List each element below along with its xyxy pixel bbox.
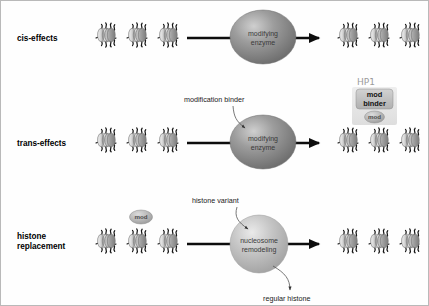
row-histone-replacement: histone replacement mod nucleosome remod… — [17, 196, 419, 303]
remodeling-label-line2: remodeling — [242, 246, 277, 254]
row-label-histone-replacement-line2: replacement — [17, 242, 66, 251]
nucleosome — [129, 23, 147, 47]
nucleosome — [371, 23, 389, 47]
nucleosome-remodeling-sphere: nucleosome remodeling — [230, 215, 288, 273]
row-label-cis-effects: cis-effects — [17, 34, 58, 43]
nucleosome-array-output — [338, 23, 419, 47]
annotation-modification-binder: modification binder — [184, 95, 245, 128]
chromatin-modification-figure: cis-effects modifying enzyme trans-effec… — [0, 0, 429, 306]
mod-mark: mod — [130, 210, 153, 224]
nucleosome — [98, 23, 116, 47]
nucleosome — [160, 128, 178, 152]
enzyme-label-line1: modifying — [248, 135, 278, 143]
nucleosome — [98, 128, 116, 152]
diagram-canvas: cis-effects modifying enzyme trans-effec… — [1, 1, 429, 306]
nucleosome-array-input — [96, 128, 178, 152]
nucleosome — [402, 229, 420, 253]
row-label-histone-replacement-line1: histone — [17, 232, 47, 241]
annotation-regular-histone: regular histone — [263, 266, 311, 303]
row-trans-effects: trans-effects modifying enzyme modificat… — [17, 77, 419, 169]
nucleosome — [340, 229, 358, 253]
enzyme-label-line1: modifying — [248, 30, 278, 38]
nucleosome-array-input — [96, 23, 178, 47]
remodeling-label-line1: nucleosome — [240, 237, 278, 244]
annotation-label: modification binder — [184, 95, 245, 104]
nucleosome — [371, 229, 389, 253]
nucleosome — [371, 128, 389, 152]
nucleosome-array-input: mod — [96, 210, 178, 253]
annotation-label: regular histone — [263, 294, 311, 303]
mod-badge-label: mod — [368, 113, 381, 120]
mod-binder-complex: mod binder mod HP1 — [352, 77, 397, 125]
nucleosome — [402, 23, 420, 47]
leader-line — [273, 266, 290, 290]
nucleosome — [129, 229, 147, 253]
nucleosome — [98, 229, 116, 253]
nucleosome — [160, 229, 178, 253]
annotation-label: histone variant — [192, 196, 239, 205]
nucleosome — [340, 128, 358, 152]
nucleosome-array-output — [338, 128, 419, 152]
nucleosome-array-output — [338, 229, 419, 253]
nucleosome — [160, 23, 178, 47]
mod-oval-label: mod — [134, 213, 147, 220]
nucleosome — [402, 128, 420, 152]
row-cis-effects: cis-effects modifying enzyme — [17, 10, 419, 64]
nucleosome — [340, 23, 358, 47]
modifying-enzyme-cis: modifying enzyme — [230, 10, 296, 64]
nucleosome — [129, 128, 147, 152]
row-label-trans-effects: trans-effects — [17, 139, 67, 148]
mod-binder-label-line2: binder — [363, 99, 386, 108]
handwritten-hp1-annotation: HP1 — [357, 77, 375, 87]
enzyme-label-line2: enzyme — [251, 144, 276, 152]
enzyme-label-line2: enzyme — [251, 39, 276, 47]
